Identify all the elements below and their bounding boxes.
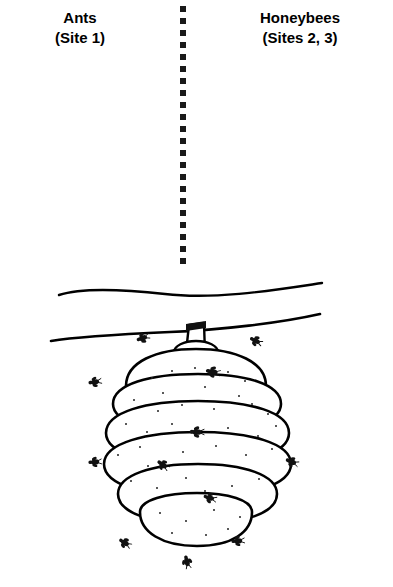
bee-icon [87, 375, 102, 389]
bee-icon [88, 456, 102, 469]
figure-canvas: Ants (Site 1) Honeybees (Sites 2, 3) [0, 0, 393, 587]
beehive-body [104, 341, 291, 546]
beehive-illustration [0, 0, 393, 587]
tree-branch [51, 283, 322, 341]
bee-icon [180, 554, 195, 570]
bee-icon [248, 333, 265, 349]
bee-icon [116, 535, 133, 551]
